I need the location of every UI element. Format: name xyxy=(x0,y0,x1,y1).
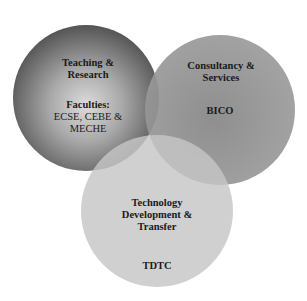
teaching-faculties: Faculties: ECSE, CEBE & MECHE xyxy=(54,99,123,135)
technology-org: TDTC xyxy=(142,260,171,272)
consultancy-title: Consultancy & Services xyxy=(187,60,254,84)
consultancy-org: BICO xyxy=(207,105,234,117)
teaching-title: Teaching & Research xyxy=(62,57,114,81)
technology-title: Technology Development & Transfer xyxy=(122,197,192,233)
venn-diagram: Teaching & Research Faculties: ECSE, CEB… xyxy=(0,0,307,301)
venn-svg xyxy=(0,0,307,301)
